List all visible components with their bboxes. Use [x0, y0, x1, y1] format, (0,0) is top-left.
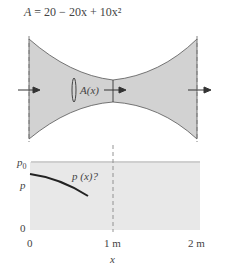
x-tick-2: 2 m [188, 237, 205, 249]
zero-label: 0 [20, 222, 26, 234]
curve-label: p (x)? [72, 170, 98, 182]
x-tick-0: 0 [27, 237, 33, 249]
plot-area [30, 162, 200, 230]
p-label: p [20, 179, 26, 191]
p0-label: p0 [17, 156, 27, 171]
x-axis-label: x [110, 253, 115, 265]
section-label: A(x) [80, 84, 99, 96]
x-tick-1: 1 m [104, 237, 121, 249]
